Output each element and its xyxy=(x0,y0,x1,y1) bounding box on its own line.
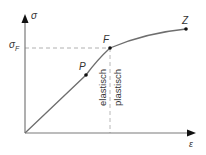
point-p-label: P xyxy=(79,62,86,72)
yield-stress-subscript: F xyxy=(15,45,19,52)
point-f-marker xyxy=(108,46,112,50)
stress-strain-diagram: σ ε σF P F Z elastisch plastisch xyxy=(0,0,206,155)
plastic-region-label: plastisch xyxy=(113,69,123,106)
point-f-label: F xyxy=(103,35,109,45)
y-axis-arrow-icon xyxy=(22,14,29,23)
yield-stress-label: σF xyxy=(9,40,19,51)
point-z-label: Z xyxy=(182,16,188,26)
x-axis-arrow-icon xyxy=(187,130,196,137)
elastic-region-label: elastisch xyxy=(98,69,108,106)
x-axis-label: ε xyxy=(189,139,193,149)
point-p-marker xyxy=(84,73,88,77)
point-z-marker xyxy=(184,27,188,31)
y-axis-label: σ xyxy=(31,11,37,21)
